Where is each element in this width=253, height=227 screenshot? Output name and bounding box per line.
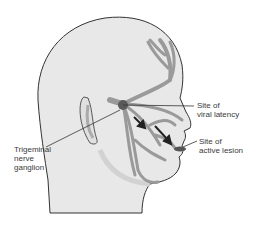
label-trigeminal-nerve-ganglion: Trigeminal nerve ganglion — [14, 145, 51, 172]
lesion-marker — [174, 147, 186, 152]
head-outline — [38, 17, 191, 213]
label-site-of-active-lesion: Site of active lesion — [199, 137, 243, 155]
label-site-of-viral-latency: Site of viral latency — [197, 101, 239, 119]
